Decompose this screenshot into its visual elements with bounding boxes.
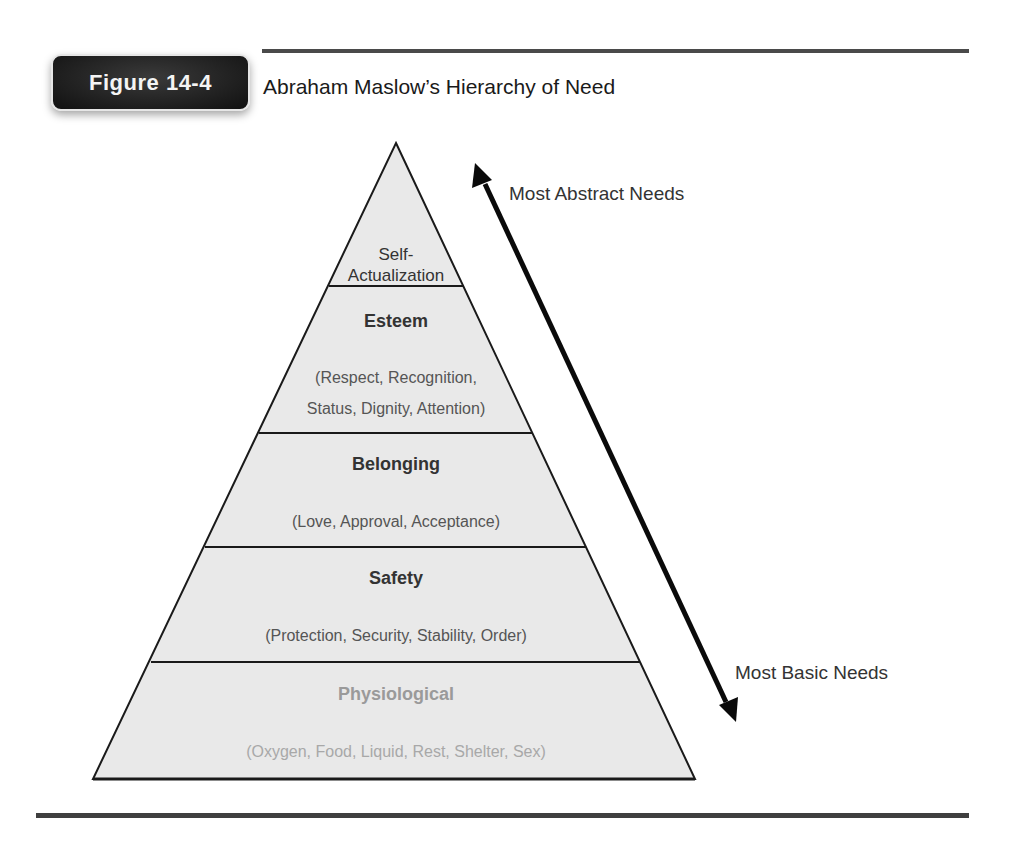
level-title: Safety <box>369 568 423 588</box>
level-title: Esteem <box>364 311 428 331</box>
level-description: (Respect, Recognition, <box>315 369 477 386</box>
level-description: Status, Dignity, Attention) <box>307 400 485 417</box>
level-description: (Love, Approval, Acceptance) <box>292 513 500 530</box>
level-title: Belonging <box>352 454 440 474</box>
label-most-basic-needs: Most Basic Needs <box>735 662 888 684</box>
level-description: (Oxygen, Food, Liquid, Rest, Shelter, Se… <box>246 743 546 760</box>
level-title: Actualization <box>348 266 444 285</box>
bottom-rule <box>36 813 969 818</box>
maslow-pyramid-diagram: Self- Actualization Esteem (Respect, Rec… <box>0 0 1014 847</box>
level-title: Physiological <box>338 684 454 704</box>
label-most-abstract-needs: Most Abstract Needs <box>509 183 684 205</box>
level-description: (Protection, Security, Stability, Order) <box>265 627 527 644</box>
level-title: Self- <box>379 245 414 264</box>
